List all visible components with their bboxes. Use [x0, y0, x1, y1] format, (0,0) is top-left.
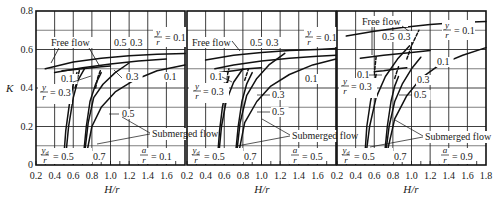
- label-yd-over-r-0.5: = 0.5: [53, 151, 74, 162]
- y-tick-0: 0: [28, 159, 33, 170]
- x-axis-label-3: H/r: [402, 183, 419, 195]
- svg-text:r: r: [445, 30, 449, 40]
- x-tick-label: 0.4: [199, 170, 212, 181]
- curve: [45, 53, 185, 68]
- y-tick-0.8: 0.8: [21, 5, 34, 16]
- label-yd-over-r-0.5: = 0.5: [354, 151, 375, 162]
- submerged-flow-label: Submerged flow: [152, 128, 219, 139]
- x-tick-label: 1.6: [160, 170, 173, 181]
- label-y-over-r-0.3: = 0.3: [50, 87, 71, 98]
- x-axis-label-2: H/r: [253, 183, 270, 195]
- x-tick-label: 1.0: [255, 170, 268, 181]
- curve-label: 0.5: [414, 89, 427, 100]
- svg-text:y: y: [306, 27, 311, 37]
- curve-label: 0.3: [126, 71, 139, 82]
- curve-label: 0.1: [61, 73, 74, 84]
- curve-label: 0.5: [272, 106, 285, 117]
- label-0.3: 0.3: [266, 37, 279, 48]
- curve: [360, 51, 430, 59]
- y-tick-0.2: 0.2: [21, 121, 34, 132]
- svg-text:a: a: [293, 145, 298, 155]
- x-tick-label: 1.2: [424, 170, 437, 181]
- free-flow-label: Free flow: [362, 16, 401, 27]
- x-tick-label: 0.4: [48, 170, 61, 181]
- curve-label: 0.3: [272, 89, 285, 100]
- x-tick-label: 0.2: [30, 170, 43, 181]
- curve-label: 0.1: [305, 73, 318, 84]
- label-y-over-r-0.1: = 0.1: [454, 25, 475, 36]
- curve-label: 0.1: [164, 71, 177, 82]
- y-tick-0.4: 0.4: [21, 82, 34, 93]
- x-axis-label-1: H/r: [103, 183, 120, 195]
- svg-text:r: r: [43, 155, 47, 165]
- x-tick-label: 1.2: [123, 170, 136, 181]
- weir-coefficient-chart: K 0.8 0.6 0.4 0.2 0 0.20.40.60.81.01.21.…: [0, 0, 497, 204]
- y-tick-0.6: 0.6: [21, 44, 34, 55]
- svg-text:r: r: [343, 86, 347, 96]
- label-yd-over-r-0.7: 0.7: [93, 151, 106, 162]
- free-flow-label: Free flow: [192, 37, 231, 48]
- x-tick-label: 0.4: [349, 170, 362, 181]
- a-over-r-annotation: = 0.5: [302, 151, 323, 162]
- x-tick-label: 1.8: [480, 170, 493, 181]
- panel-2: 0.20.40.60.81.01.21.41.6Free flow0.50.3y…: [181, 11, 359, 181]
- x-tick-label: 0.2: [331, 170, 344, 181]
- svg-text:y: y: [41, 82, 46, 92]
- chart-panels: 0.20.40.60.81.01.21.41.6Free flow0.50.3y…: [30, 11, 493, 181]
- label-y-over-r-0.1: = 0.1: [316, 32, 337, 43]
- x-tick-label: 0.6: [218, 170, 231, 181]
- label-yd-over-r-0.7: 0.7: [394, 151, 407, 162]
- svg-text:r: r: [344, 155, 348, 165]
- curve: [215, 55, 336, 69]
- x-tick-label: 1.0: [405, 170, 418, 181]
- label-0.5: 0.5: [250, 37, 263, 48]
- svg-text:a: a: [142, 145, 147, 155]
- label-0.5: 0.5: [382, 31, 395, 42]
- a-over-r-annotation: = 0.9: [452, 151, 473, 162]
- svg-text:r: r: [307, 37, 311, 47]
- x-tick-label: 0.8: [86, 170, 99, 181]
- label-y-over-r-0.1: = 0.1: [165, 32, 186, 43]
- svg-text:r: r: [293, 155, 297, 165]
- curve: [245, 69, 249, 81]
- x-tick-label: 1.0: [104, 170, 117, 181]
- curve-label: 0.5: [122, 108, 135, 119]
- curve: [206, 49, 336, 61]
- y-axis-label: K: [5, 82, 14, 94]
- label-0.3: 0.3: [398, 31, 411, 42]
- x-tick-label: 0.2: [181, 170, 194, 181]
- curve-label: 0.3: [417, 74, 430, 85]
- free-flow-label: Free flow: [51, 37, 90, 48]
- svg-text:r: r: [156, 37, 160, 47]
- panel-3: 0.20.40.60.81.01.21.41.61.8Free flow0.50…: [331, 11, 493, 181]
- label-y-over-r-0.3: = 0.3: [203, 86, 224, 97]
- x-tick-label: 1.6: [311, 170, 324, 181]
- submerged-flow-label: Submerged flow: [425, 131, 492, 142]
- svg-text:r: r: [194, 155, 198, 165]
- svg-text:y: y: [155, 27, 160, 37]
- x-tick-label: 1.4: [443, 170, 456, 181]
- submerged-flow-label: Submerged flow: [292, 130, 359, 141]
- svg-text:r: r: [195, 91, 199, 101]
- svg-text:y: y: [194, 81, 199, 91]
- x-tick-label: 1.4: [142, 170, 155, 181]
- label-yd-over-r-0.7: 0.7: [244, 151, 257, 162]
- svg-text:r: r: [42, 92, 46, 102]
- x-tick-label: 1.4: [293, 170, 306, 181]
- x-tick-label: 0.8: [237, 170, 250, 181]
- svg-text:r: r: [443, 155, 447, 165]
- x-tick-label: 1.2: [274, 170, 287, 181]
- x-tick-label: 1.6: [461, 170, 474, 181]
- x-tick-label: 0.6: [67, 170, 80, 181]
- curve-label: 0.1: [210, 71, 223, 82]
- svg-text:r: r: [142, 155, 146, 165]
- x-tick-label: 0.6: [368, 170, 381, 181]
- a-over-r-annotation: = 0.1: [151, 151, 172, 162]
- label-y-over-r-0.3: = 0.3: [351, 81, 372, 92]
- label-0.3: 0.3: [130, 37, 143, 48]
- curve-label: 0.1: [437, 56, 450, 67]
- svg-text:y: y: [342, 76, 347, 86]
- x-tick-label: 0.8: [387, 170, 400, 181]
- y-tick-labels: 0.8 0.6 0.4 0.2 0: [21, 5, 34, 170]
- svg-text:y: y: [444, 20, 449, 30]
